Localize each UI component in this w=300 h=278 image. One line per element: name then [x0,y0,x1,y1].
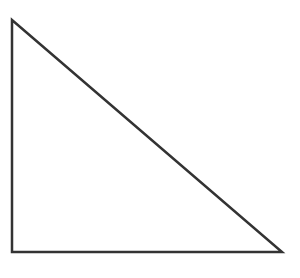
right-triangle-shape [12,20,282,252]
triangle-svg [0,0,300,278]
figure-canvas [0,0,300,278]
